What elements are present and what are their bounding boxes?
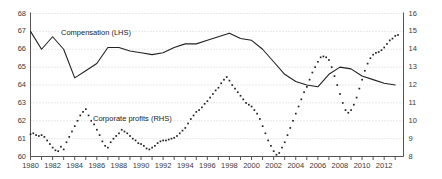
data-point <box>71 131 73 133</box>
data-point <box>107 147 109 149</box>
data-point <box>273 150 275 152</box>
data-point <box>339 93 341 95</box>
y-axis-right-tick-label: 13 <box>409 63 435 71</box>
data-point <box>295 113 297 115</box>
data-point <box>303 91 305 93</box>
x-axis-tick-label: 1988 <box>107 162 131 170</box>
data-point <box>176 135 178 137</box>
data-point <box>375 52 377 54</box>
data-point <box>57 150 59 152</box>
series-dots-corporate-profits <box>30 34 399 155</box>
data-point <box>289 127 291 129</box>
data-point <box>157 142 159 144</box>
data-point <box>300 99 302 101</box>
data-point <box>140 143 142 145</box>
data-point <box>173 137 175 139</box>
data-point <box>49 143 51 145</box>
data-point <box>52 147 54 149</box>
y-axis-left-tick-label: 64 <box>2 81 26 89</box>
data-point <box>63 149 65 151</box>
data-point <box>226 76 228 78</box>
x-axis-tick-label: 1994 <box>173 162 197 170</box>
x-axis-tick-label: 1984 <box>63 162 87 170</box>
data-point <box>60 146 62 148</box>
data-point <box>312 72 314 74</box>
data-point <box>137 142 139 144</box>
x-axis-tick-label: 1990 <box>129 162 153 170</box>
data-point <box>212 93 214 95</box>
data-point <box>256 113 258 115</box>
data-point <box>66 141 68 143</box>
data-point <box>201 107 203 109</box>
data-point <box>358 88 360 90</box>
data-point <box>129 135 131 137</box>
data-point <box>317 61 319 63</box>
data-point <box>262 125 264 127</box>
data-point <box>132 138 134 140</box>
data-point <box>198 109 200 111</box>
y-axis-left-tick-label: 63 <box>2 99 26 107</box>
x-axis-tick-label: 1996 <box>195 162 219 170</box>
data-point <box>320 56 322 58</box>
data-point <box>245 102 247 104</box>
data-point <box>126 132 128 134</box>
x-axis-tick-label: 1980 <box>19 162 43 170</box>
data-point <box>143 145 145 147</box>
data-point <box>234 88 236 90</box>
y-axis-left-tick-label: 66 <box>2 45 26 53</box>
data-point <box>356 97 358 99</box>
data-point <box>160 141 162 143</box>
chart-container: 6061626364656667688910111213141516198019… <box>0 0 442 179</box>
data-point <box>229 80 231 82</box>
y-axis-right-tick-label: 9 <box>409 135 435 143</box>
y-axis-right-tick-label: 8 <box>409 153 435 161</box>
y-axis-right-tick-label: 10 <box>409 117 435 125</box>
data-point <box>32 132 34 134</box>
data-point <box>284 141 286 143</box>
data-point <box>41 134 43 136</box>
y-axis-right-tick-label: 11 <box>409 99 435 107</box>
data-point <box>281 147 283 149</box>
data-point <box>267 140 269 142</box>
data-point <box>336 84 338 86</box>
data-point <box>154 145 156 147</box>
data-point <box>118 132 120 134</box>
data-point <box>102 141 104 143</box>
data-point <box>30 133 32 135</box>
data-point <box>372 54 374 56</box>
data-point <box>298 106 300 108</box>
data-point <box>182 130 184 132</box>
data-point <box>383 47 385 49</box>
data-point <box>350 109 352 111</box>
y-axis-left-tick-label: 67 <box>2 27 26 35</box>
data-point <box>278 152 280 154</box>
data-point <box>190 118 192 120</box>
data-point <box>99 134 101 136</box>
data-point <box>193 115 195 117</box>
data-point <box>254 109 256 111</box>
data-point <box>394 35 396 37</box>
data-point <box>325 56 327 58</box>
data-point <box>85 108 87 110</box>
data-point <box>240 95 242 97</box>
data-point <box>93 124 95 126</box>
data-point <box>397 34 399 36</box>
data-point <box>195 111 197 113</box>
data-point <box>292 120 294 122</box>
data-point <box>331 66 333 68</box>
data-point <box>79 115 81 117</box>
x-axis-tick-label: 1982 <box>41 162 65 170</box>
x-axis-tick-label: 2006 <box>306 162 330 170</box>
series-line-compensation <box>31 31 396 86</box>
data-point <box>82 111 84 113</box>
data-point <box>265 132 267 134</box>
data-point <box>74 125 76 127</box>
data-point <box>124 131 126 133</box>
x-axis-tick-label: 2000 <box>240 162 264 170</box>
data-point <box>353 104 355 106</box>
x-axis-tick-label: 2008 <box>328 162 352 170</box>
data-point <box>115 135 117 137</box>
data-point <box>162 140 164 142</box>
y-axis-left-tick-label: 65 <box>2 63 26 71</box>
data-point <box>220 82 222 84</box>
